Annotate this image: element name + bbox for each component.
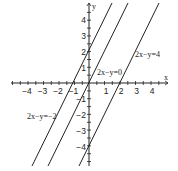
line-2x-y-0 [48, 3, 128, 166]
coordinate-plane: −4 −3 −2 −1 1 2 3 4 4 3 2 1 −1 −2 −3 −4 … [0, 0, 178, 171]
line-2x-y-4 [79, 3, 159, 166]
x-tick-label: 1 [104, 86, 109, 96]
line-2x-y-neg2 [32, 3, 112, 166]
x-tick-label: 2 [119, 86, 124, 96]
equation-label-4: 2x−y=4 [135, 50, 160, 59]
y-tick-label: 4 [81, 15, 86, 25]
x-axis-label: x [164, 73, 168, 82]
equation-label-neg2: 2x−y=−2 [27, 112, 57, 121]
x-tick-label: −4 [22, 86, 32, 96]
y-tick-label: −3 [76, 126, 86, 136]
x-tick-label: 3 [134, 86, 139, 96]
x-tick-label: 4 [150, 86, 155, 96]
y-tick-label: −4 [76, 142, 86, 152]
y-axis-label: y [92, 2, 96, 11]
x-tick-label: −2 [53, 86, 63, 96]
equation-label-0: 2x−y=0 [97, 68, 122, 77]
y-tick-label: 2 [81, 47, 86, 57]
y-tick-label: −2 [76, 110, 86, 120]
x-tick-label: −3 [38, 86, 48, 96]
y-tick-label: 3 [81, 31, 86, 41]
